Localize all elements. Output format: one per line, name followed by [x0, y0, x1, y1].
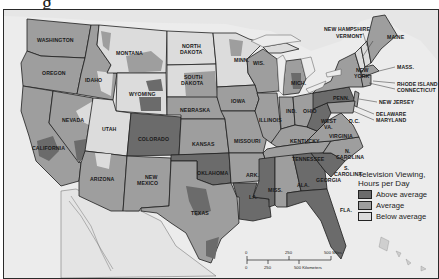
legend-label-below: Below average [376, 212, 426, 221]
scale-miles-250: 250 [285, 250, 292, 255]
scale-bar: 0 250 500 Miles 0 250 500 Kilometers [244, 249, 334, 275]
label-az: ARIZONA [90, 176, 114, 182]
label-ok: OKLAHOMA [197, 170, 228, 176]
label-la: LA. [249, 194, 258, 200]
label-in: IND. [286, 108, 297, 114]
scale-km-500: 500 Kilometers [294, 265, 322, 270]
scale-miles-500: 500 Miles [324, 250, 342, 255]
legend-item-average: Average [358, 201, 438, 210]
label-ar: ARK. [246, 172, 259, 178]
label-nh: NEW HAMPSHIRE [324, 26, 370, 32]
label-ut: UTAH [102, 126, 116, 132]
label-wy: WYOMING [129, 91, 156, 97]
label-ca: CALIFORNIA [32, 145, 65, 151]
label-ks: KANSAS [192, 141, 215, 147]
label-co: COLORADO [138, 136, 169, 142]
label-tn: TENNESSEE [292, 156, 324, 162]
state-md [327, 101, 355, 113]
state-co [127, 113, 181, 156]
map-frame: WASHINGTON OREGON IDAHO MONTANA WYOMING … [3, 9, 439, 279]
label-al: ALA. [297, 182, 310, 188]
label-ne: NEBRASKA [180, 107, 210, 113]
label-ct: CONNECTICUT [397, 87, 436, 93]
swatch-below-average [358, 212, 372, 221]
legend-title-line2: Hours per Day [358, 179, 438, 188]
label-fl: FLA. [340, 207, 352, 213]
legend-label-average: Average [376, 201, 404, 210]
scale-km-0: 0 [245, 265, 247, 270]
label-nv: NEVADA [62, 117, 84, 123]
swatch-average [358, 201, 372, 210]
label-mn: MINN. [234, 57, 249, 63]
label-ky: KENTUCKY [290, 138, 320, 144]
label-vt: VERMONT [336, 33, 363, 39]
swatch-above-average [358, 190, 372, 199]
label-tx: TEXAS [191, 210, 209, 216]
label-md: MARYLAND [376, 117, 406, 123]
label-mt: MONTANA [116, 50, 143, 56]
label-me: MAINE [387, 34, 404, 40]
state-ks [179, 119, 229, 155]
label-oh: OHIO [303, 108, 317, 114]
label-id: IDAHO [85, 77, 102, 83]
label-il: ILLINOIS [259, 117, 282, 123]
label-mi: MICH. [291, 80, 306, 86]
label-wi: WIS. [253, 60, 265, 66]
label-va: VIRGINIA [329, 133, 353, 139]
legend-item-below: Below average [358, 212, 438, 221]
label-wv-2: VA. [324, 124, 333, 130]
us-map [4, 10, 438, 278]
label-nc-2: CAROLINA [336, 154, 364, 160]
label-ma: MASS. [397, 64, 414, 70]
label-dc: D.C. [349, 118, 360, 124]
label-nd-2: DAKOTA [180, 49, 202, 55]
scale-km-250: 250 [264, 265, 271, 270]
legend-title-line1: Television Viewing, [358, 170, 438, 179]
label-or: OREGON [42, 70, 66, 76]
label-wa: WASHINGTON [37, 37, 74, 43]
label-mo: MISSOURI [234, 138, 260, 144]
scale-miles-0: 0 [245, 250, 247, 255]
label-ga: GEORGIA [316, 177, 341, 183]
label-sd-2: DAKOTA [181, 80, 203, 86]
label-pa: PENN. [333, 95, 349, 101]
label-nj: NEW JERSEY [379, 99, 414, 105]
label-ia: IOWA [231, 98, 245, 104]
legend-item-above: Above average [358, 190, 438, 199]
label-nm-2: MEXICO [137, 180, 158, 186]
label-ny-2: YORK [354, 73, 369, 79]
legend: Television Viewing, Hours per Day Above … [358, 170, 438, 221]
legend-label-above: Above average [376, 190, 427, 199]
label-ms: MISS. [268, 187, 283, 193]
